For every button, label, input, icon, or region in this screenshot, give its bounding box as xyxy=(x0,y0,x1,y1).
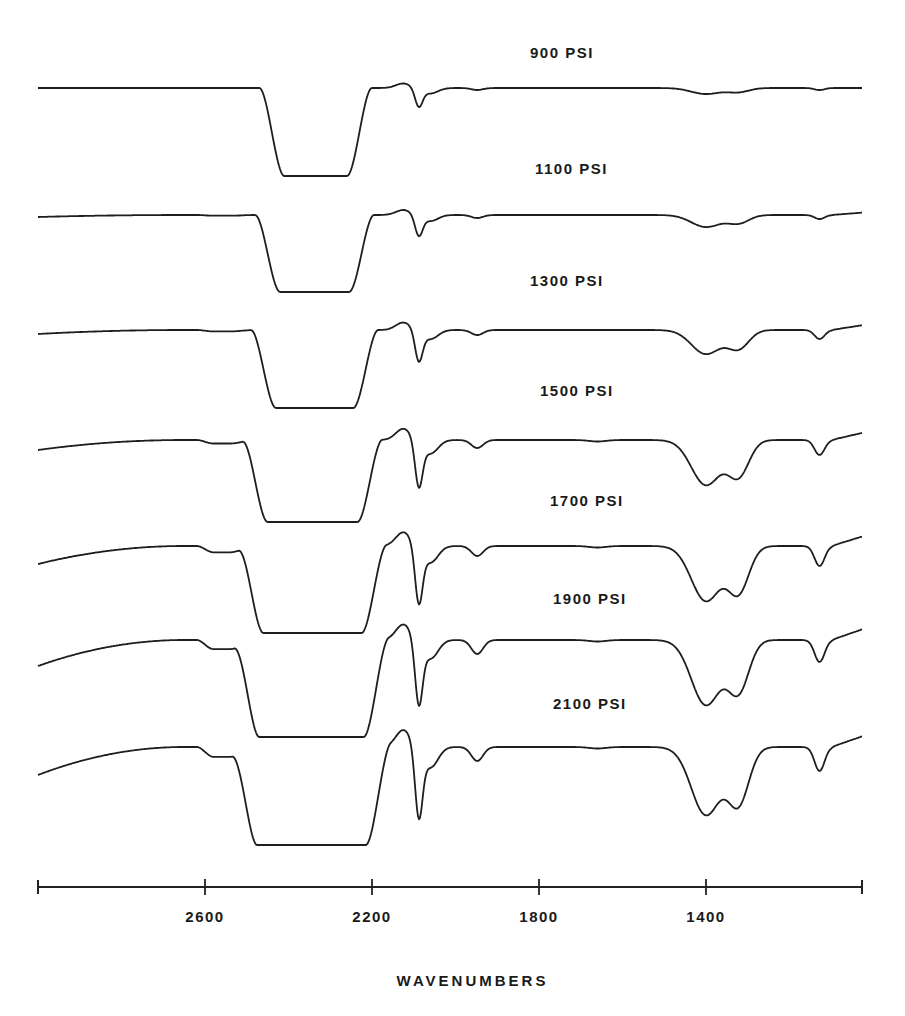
trace-label: 900 PSI xyxy=(530,44,594,61)
spectrum-trace xyxy=(38,84,862,177)
x-tick-label: 2600 xyxy=(185,908,224,925)
x-axis xyxy=(38,879,862,895)
spectrum-trace xyxy=(38,323,862,409)
trace-label: 1500 PSI xyxy=(540,382,614,399)
spectra-traces xyxy=(38,84,862,846)
x-tick-label: 1400 xyxy=(686,908,725,925)
spectrum-trace xyxy=(38,429,862,522)
trace-label: 1700 PSI xyxy=(550,492,624,509)
x-axis-title: WAVENUMBERS xyxy=(0,972,905,989)
spectrum-trace xyxy=(38,730,862,845)
spectrum-trace xyxy=(38,210,862,292)
trace-label: 1300 PSI xyxy=(530,272,604,289)
spectrum-trace xyxy=(38,532,862,633)
trace-label: 1100 PSI xyxy=(535,160,608,177)
spectra-chart xyxy=(0,0,905,1016)
x-tick-label: 1800 xyxy=(519,908,558,925)
trace-label: 2100 PSI xyxy=(553,695,627,712)
spectrum-trace xyxy=(38,625,862,738)
x-tick-label: 2200 xyxy=(352,908,391,925)
trace-label: 1900 PSI xyxy=(553,590,627,607)
